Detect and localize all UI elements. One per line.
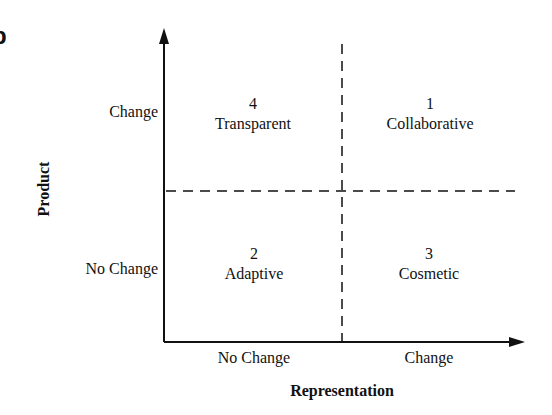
x-axis-title: Representation — [290, 382, 394, 400]
quadrant-number: 4 — [215, 94, 291, 114]
y-tick-no-change: No Change — [86, 260, 158, 278]
y-axis-arrow-icon — [159, 28, 169, 44]
quadrant-number: 3 — [399, 244, 459, 264]
quadrant-number: 2 — [225, 244, 284, 264]
y-axis-title: Product — [35, 162, 53, 217]
x-tick-no-change: No Change — [218, 349, 290, 367]
quadrant-number: 1 — [386, 94, 473, 114]
quadrant-label: Adaptive — [225, 264, 284, 284]
quadrant-label: Collaborative — [386, 114, 473, 134]
quadrant-label: Cosmetic — [399, 264, 459, 284]
quadrant-top-left: 4 Transparent — [215, 94, 291, 134]
quadrant-label: Transparent — [215, 114, 291, 134]
x-axis-arrow-icon — [509, 337, 525, 347]
quadrant-bottom-right: 3 Cosmetic — [399, 244, 459, 284]
y-tick-change: Change — [109, 103, 158, 121]
quadrant-top-right: 1 Collaborative — [386, 94, 473, 134]
quadrant-bottom-left: 2 Adaptive — [225, 244, 284, 284]
x-tick-change: Change — [405, 349, 454, 367]
